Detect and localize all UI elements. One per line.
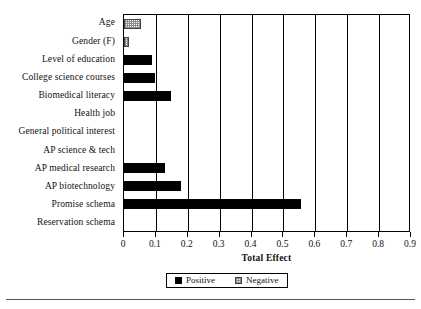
y-axis-label-reservation-schema: Reservation schema: [0, 214, 119, 232]
bar-promise-schema: [124, 199, 301, 209]
bar-row: [124, 15, 409, 33]
bar-row: [124, 123, 409, 141]
x-axis-tick-label: 0.2: [181, 237, 193, 251]
x-axis-tick-labels: 00.10.20.30.40.50.60.70.80.9: [123, 237, 410, 251]
bar-level-of-education: [124, 55, 152, 65]
legend-label-negative: Negative: [246, 276, 278, 285]
bar-row: [124, 177, 409, 195]
x-axis-tick-label: 0.6: [308, 237, 320, 251]
chart-legend: Positive Negative: [166, 273, 288, 288]
bar-series: [124, 15, 409, 231]
x-axis-title: Total Effect: [123, 253, 410, 263]
bar-row: [124, 105, 409, 123]
legend-label-positive: Positive: [186, 276, 215, 285]
bar-row: [124, 195, 409, 213]
x-axis-tick-label: 0.3: [213, 237, 225, 251]
legend-swatch-negative-icon: [235, 277, 242, 284]
bottom-divider: [6, 299, 415, 300]
x-axis-tick-label: 0.7: [340, 237, 352, 251]
plot-area: [123, 14, 410, 232]
y-axis-label-age: Age: [0, 14, 119, 32]
y-axis-label-level-of-education: Level of education: [0, 50, 119, 68]
bar-row: [124, 69, 409, 87]
bar-row: [124, 159, 409, 177]
legend-entry-positive: Positive: [175, 276, 215, 285]
bar-ap-biotechnology: [124, 181, 181, 191]
bar-chart-figure: Age Gender (F) Level of education Colleg…: [0, 0, 421, 309]
y-axis-label-general-political-interest: General political interest: [0, 123, 119, 141]
x-axis-tick-label: 0.8: [372, 237, 384, 251]
y-axis-label-gender: Gender (F): [0, 32, 119, 50]
bar-ap-medical-research: [124, 163, 165, 173]
x-axis-tick-label: 0.1: [149, 237, 161, 251]
y-axis-label-ap-medical-research: AP medical research: [0, 159, 119, 177]
bar-biomedical-literacy: [124, 91, 171, 101]
bar-gender: [124, 37, 129, 47]
bar-row: [124, 213, 409, 231]
bar-college-science-courses: [124, 73, 155, 83]
bar-row: [124, 33, 409, 51]
y-axis-label-biomedical-literacy: Biomedical literacy: [0, 87, 119, 105]
bar-row: [124, 141, 409, 159]
x-axis-tick-label: 0.9: [404, 237, 416, 251]
bar-age: [124, 19, 141, 29]
x-axis-tick-label: 0.4: [245, 237, 257, 251]
legend-swatch-positive-icon: [175, 277, 182, 284]
y-axis-label-promise-schema: Promise schema: [0, 196, 119, 214]
y-axis-label-ap-science-tech: AP science & tech: [0, 141, 119, 159]
y-axis-category-labels: Age Gender (F) Level of education Colleg…: [0, 14, 119, 232]
y-axis-label-ap-biotechnology: AP biotechnology: [0, 178, 119, 196]
bar-row: [124, 51, 409, 69]
legend-entry-negative: Negative: [235, 276, 278, 285]
bar-row: [124, 87, 409, 105]
x-axis-tick-label: 0.5: [277, 237, 289, 251]
x-axis-tick-label: 0: [121, 237, 126, 251]
y-axis-label-college-science-courses: College science courses: [0, 69, 119, 87]
y-axis-label-health-job: Health job: [0, 105, 119, 123]
